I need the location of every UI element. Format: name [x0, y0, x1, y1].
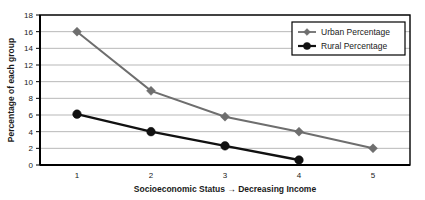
chart-legend[interactable]: Urban Percentage Rural Percentage: [292, 22, 405, 55]
y-tick-label: 16: [24, 28, 33, 37]
x-tick-label: 3: [223, 171, 228, 180]
y-tick-label: 8: [29, 94, 34, 103]
y-tick-label: 10: [24, 78, 33, 87]
data-point-rural: [73, 110, 82, 119]
data-point-rural: [147, 127, 156, 136]
legend-label-urban: Urban Percentage: [321, 27, 390, 37]
x-tick-label: 5: [371, 171, 376, 180]
x-axis-title: Socioeconomic Status → Decreasing Income: [134, 184, 317, 194]
x-axis-tick-labels: 1 2 3 4 5: [75, 171, 376, 180]
data-point-rural: [221, 142, 230, 151]
y-tick-label: 0: [29, 161, 34, 170]
y-tick-label: 4: [29, 128, 34, 137]
y-tick-label: 18: [24, 11, 33, 20]
y-tick-label: 14: [24, 44, 33, 53]
legend-marker-rural-icon: [303, 42, 310, 49]
x-tick-label: 2: [149, 171, 154, 180]
y-tick-label: 2: [29, 144, 34, 153]
y-tick-label: 6: [29, 111, 34, 120]
x-tick-label: 4: [297, 171, 302, 180]
x-tick-label: 1: [75, 171, 80, 180]
y-tick-label: 12: [24, 61, 33, 70]
y-axis-tick-labels: 0 2 4 6 8 10 12 14 16 18: [24, 11, 33, 170]
line-chart: 0 2 4 6 8 10 12 14 16 18 1 2 3 4 5: [0, 0, 425, 200]
data-point-rural: [295, 156, 304, 165]
legend-label-rural: Rural Percentage: [321, 41, 387, 51]
y-axis-title: Percentage of each group: [6, 38, 16, 142]
chart-container: 0 2 4 6 8 10 12 14 16 18 1 2 3 4 5: [0, 0, 425, 200]
